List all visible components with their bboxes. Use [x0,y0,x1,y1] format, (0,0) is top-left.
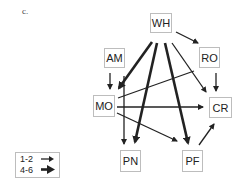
edge-wh-ro [176,32,198,43]
node-label: WH [152,17,170,29]
node-label: CR [213,102,229,114]
thin-arrow-icon [41,155,55,163]
edge-mo-pf [117,113,177,141]
node-pn: PN [120,150,141,172]
node-am: AM [104,48,125,68]
node-label: AM [106,52,123,64]
thick-arrow-icon [41,165,55,174]
node-label: PF [185,155,199,167]
legend-item-thin: 1-2 [16,153,59,164]
node-wh: WH [150,13,172,33]
legend: 1-2 4-6 [15,152,60,178]
edge-pf-cr [199,124,214,145]
legend-label: 1-2 [20,154,41,164]
legend-item-thick: 4-6 [16,164,59,175]
edge-wh-pf [165,43,188,143]
node-pf: PF [182,150,203,172]
node-label: RO [201,52,218,64]
node-cr: CR [209,97,232,118]
legend-label: 4-6 [20,165,41,175]
node-label: MO [95,100,113,112]
node-ro: RO [199,47,220,68]
node-mo: MO [93,95,115,117]
node-label: PN [123,155,138,167]
